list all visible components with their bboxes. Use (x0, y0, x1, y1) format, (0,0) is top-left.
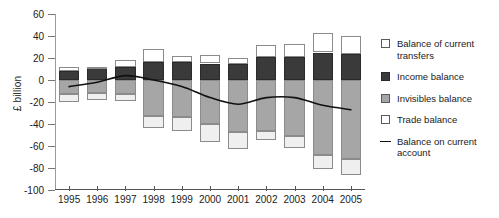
balance-on-current-account-line (69, 76, 351, 110)
x-tick (69, 186, 70, 191)
legend-item-label: Balance on current account (397, 136, 499, 159)
x-tick (210, 186, 211, 191)
x-tick-label: 1995 (58, 194, 80, 205)
x-tick-label: 2000 (199, 194, 221, 205)
chart-legend: Balance of current transfersIncome balan… (381, 38, 499, 169)
y-axis-label: £ billion (12, 49, 23, 139)
white-square-icon (381, 39, 390, 48)
x-tick-label: 2002 (255, 194, 277, 205)
x-tick (238, 186, 239, 191)
legend-item-transfers[interactable]: Balance of current transfers (381, 38, 499, 61)
y-tick-label: -80 (30, 163, 44, 174)
line-series-layer (55, 14, 365, 190)
y-tick: -20 (48, 102, 55, 103)
x-tick-label: 1996 (86, 194, 108, 205)
y-tick: 60 (48, 14, 55, 15)
y-tick-label: 20 (33, 53, 44, 64)
x-tick (182, 186, 183, 191)
y-tick-label: 0 (38, 75, 44, 86)
legend-item-income[interactable]: Income balance (381, 71, 499, 83)
dark-square-icon (381, 72, 390, 81)
y-tick: -60 (48, 146, 55, 147)
legend-item-line[interactable]: Balance on current account (381, 136, 499, 159)
y-tick: -40 (48, 124, 55, 125)
y-tick: 0 (48, 80, 55, 81)
x-tick-label: 1998 (143, 194, 165, 205)
y-tick-label: -40 (30, 119, 44, 130)
y-tick: -80 (48, 168, 55, 169)
x-tick (295, 186, 296, 191)
legend-item-invisibles[interactable]: Invisibles balance (381, 93, 499, 105)
legend-item-label: Income balance (397, 71, 499, 83)
x-tick-label: 2003 (283, 194, 305, 205)
legend-item-label: Balance of current transfers (397, 38, 499, 61)
x-tick-label: 1999 (171, 194, 193, 205)
legend-item-label: Invisibles balance (397, 93, 499, 105)
y-tick: 40 (48, 36, 55, 37)
x-tick-label: 2001 (227, 194, 249, 205)
x-tick (323, 186, 324, 191)
x-tick (97, 186, 98, 191)
gray-square-icon (381, 94, 390, 103)
x-tick (266, 186, 267, 191)
y-tick-label: -20 (30, 97, 44, 108)
y-tick-label: 60 (33, 9, 44, 20)
line-icon (381, 137, 390, 146)
legend-item-label: Trade balance (397, 114, 499, 126)
x-tick-label: 2005 (340, 194, 362, 205)
y-tick-label: -100 (24, 185, 44, 196)
chart-root: £ billion 6040200-20-40-60-80-100 199519… (0, 0, 499, 218)
x-tick (125, 186, 126, 191)
y-tick: -100 (48, 190, 55, 191)
x-tick (154, 186, 155, 191)
x-tick-label: 1997 (114, 194, 136, 205)
white-square-icon (381, 115, 390, 124)
plot-area: 6040200-20-40-60-80-100 1995199619971998… (55, 14, 365, 190)
x-tick (351, 186, 352, 191)
legend-item-trade[interactable]: Trade balance (381, 114, 499, 126)
y-tick-label: 40 (33, 31, 44, 42)
x-tick-label: 2004 (312, 194, 334, 205)
y-tick: 20 (48, 58, 55, 59)
y-tick-label: -60 (30, 141, 44, 152)
